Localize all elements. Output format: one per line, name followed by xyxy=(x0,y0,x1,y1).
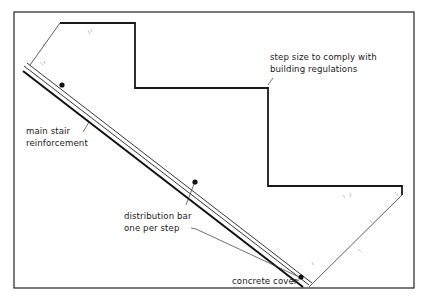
label-distribution-bar-line1: distribution bar xyxy=(124,211,192,222)
label-step-size-line2: building regulations xyxy=(270,64,357,75)
label-main-reinforcement-line2: reinforcement xyxy=(26,138,88,149)
stair-section-svg xyxy=(0,0,423,301)
diagram-canvas: step size to comply with building regula… xyxy=(0,0,423,301)
leader-step-size xyxy=(268,78,273,85)
main-reinforcement-bar-lower xyxy=(24,66,309,285)
label-concrete-cover: concrete cover xyxy=(232,276,297,287)
distribution-bar-3 xyxy=(298,274,303,279)
distribution-bar-1 xyxy=(59,82,64,87)
label-distribution-bar-line2: one per step xyxy=(124,223,180,234)
distribution-bar-2 xyxy=(192,179,197,184)
slab-soffit xyxy=(23,71,303,287)
label-main-reinforcement-line1: main stair xyxy=(26,126,70,137)
label-step-size-line1: step size to comply with xyxy=(270,52,377,63)
stair-outline xyxy=(60,23,402,195)
main-reinforcement-bar-upper xyxy=(27,63,312,283)
upper-end-cut xyxy=(30,23,60,65)
lower-end-cut xyxy=(309,195,402,287)
leader-main-reinforcement xyxy=(83,122,89,132)
